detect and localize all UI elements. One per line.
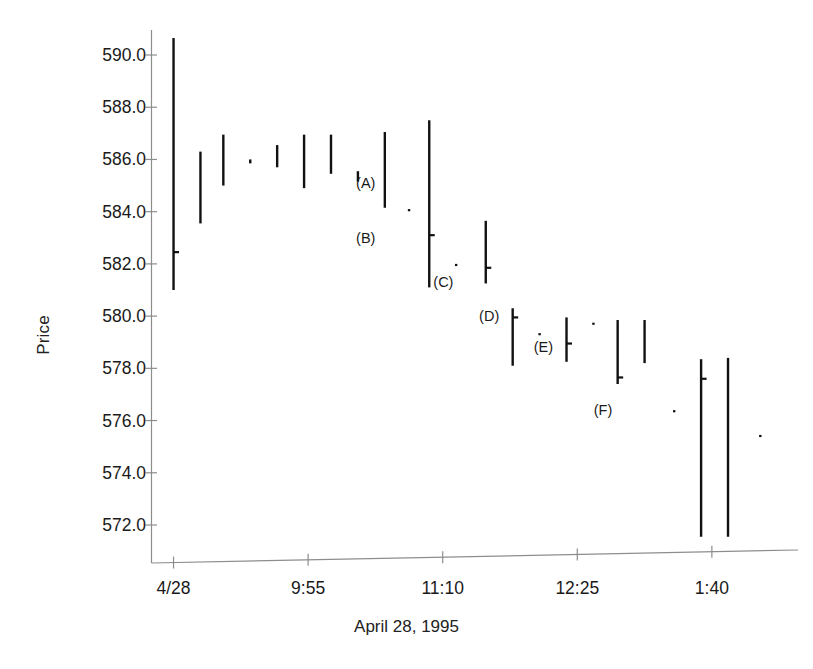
price-chart: Price 572.0574.0576.0578.0580.0582.0584.… [0, 0, 813, 669]
x-tick-label: 4/28 [157, 578, 191, 599]
chart-annotation-label: (C) [433, 274, 453, 290]
price-bar [701, 359, 707, 537]
price-bar [429, 120, 435, 287]
chart-annotation-label: (F) [594, 402, 613, 418]
x-axis-line [152, 550, 799, 563]
plot-area [0, 0, 813, 669]
price-bar [567, 317, 573, 361]
chart-annotation-label: (A) [356, 175, 375, 191]
price-bar [174, 38, 180, 290]
x-tick-label: 1:40 [695, 578, 729, 599]
x-axis-ticks [174, 546, 712, 569]
chart-annotation-label: (D) [479, 308, 499, 324]
chart-annotation-label: (E) [534, 339, 553, 355]
price-bar [486, 221, 492, 284]
price-bar [618, 320, 624, 384]
x-axis-title-text: April 28, 1995 [354, 617, 459, 636]
x-axis-title: April 28, 1995 [0, 617, 813, 637]
x-tick-label: 12:25 [555, 578, 599, 599]
x-tick-label: 11:10 [421, 578, 464, 599]
price-bars [174, 38, 761, 537]
price-bar [513, 308, 519, 365]
x-tick-label: 9:55 [291, 578, 325, 599]
chart-annotation-label: (B) [356, 230, 375, 246]
